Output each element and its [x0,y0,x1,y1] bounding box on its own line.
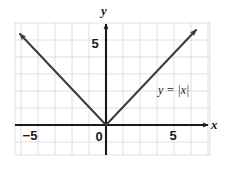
curve-equation-label: y = |x| [157,83,189,97]
absolute-value-graph-figure: x y −5 0 5 5 y = |x| [0,0,227,170]
x-tick-label-5: 5 [169,128,176,143]
x-tick-label-neg5: −5 [23,128,38,143]
y-tick-label-5: 5 [91,36,98,51]
coordinate-plane-svg: x y −5 0 5 5 y = |x| [0,0,227,170]
origin-label: 0 [95,129,102,144]
plot-background [0,0,227,170]
y-axis-label: y [99,3,107,18]
x-axis-label: x [210,117,218,132]
